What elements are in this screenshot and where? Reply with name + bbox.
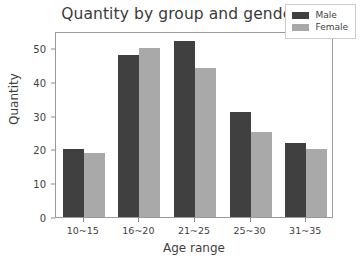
- legend-swatch-icon: [292, 12, 309, 19]
- x-tick-mark: [194, 218, 195, 222]
- bar-female-31~35: [306, 149, 327, 217]
- x-tick-mark: [83, 218, 84, 222]
- y-tick-label: 50: [33, 43, 46, 54]
- x-tick-mark: [250, 218, 251, 222]
- x-tick-label: 25~30: [234, 225, 266, 236]
- bar-female-16~20: [139, 48, 160, 217]
- x-tick-mark: [305, 218, 306, 222]
- x-tick-label: 31~35: [289, 225, 321, 236]
- bar-female-25~30: [251, 132, 272, 217]
- bar-male-10~15: [63, 149, 84, 217]
- legend-label: Male: [315, 11, 336, 20]
- bar-female-21~25: [195, 68, 216, 217]
- y-tick-label: 10: [33, 179, 46, 190]
- x-tick-label: 16~20: [122, 225, 154, 236]
- legend-item-female: Female: [292, 22, 348, 33]
- bar-male-25~30: [230, 112, 251, 217]
- legend: MaleFemale: [285, 4, 356, 39]
- x-tick-label: 10~15: [67, 225, 99, 236]
- bars-layer: [56, 33, 332, 217]
- bar-female-10~15: [84, 153, 105, 217]
- legend-item-male: Male: [292, 10, 348, 21]
- y-tick-label: 30: [33, 111, 46, 122]
- bar-male-31~35: [285, 143, 306, 217]
- y-axis-label: Quantity: [7, 49, 21, 149]
- y-tick-label: 20: [33, 145, 46, 156]
- legend-swatch-icon: [292, 24, 309, 31]
- x-tick-label: 21~25: [178, 225, 210, 236]
- x-tick-mark: [138, 218, 139, 222]
- y-tick-label: 40: [33, 77, 46, 88]
- x-axis-label: Age range: [55, 241, 333, 255]
- plot-area: [55, 32, 333, 218]
- legend-label: Female: [315, 23, 348, 32]
- bar-chart-figure: Quantity by group and gender 01020304050…: [0, 0, 360, 266]
- y-tick-label: 0: [40, 213, 46, 224]
- bar-male-21~25: [174, 41, 195, 217]
- bar-male-16~20: [118, 55, 139, 217]
